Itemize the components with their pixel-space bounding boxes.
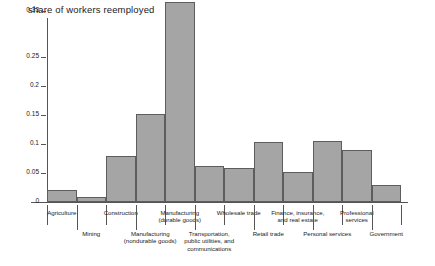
bar-chart: share of workers reemployed 00.050.10.15… (0, 0, 435, 266)
y-axis-tick: 0.15 (0, 115, 46, 116)
bar (136, 114, 166, 202)
category-divider (313, 205, 314, 230)
category-label-line: services (318, 216, 395, 223)
y-axis-tick: 0.2 (0, 86, 46, 87)
bar (224, 168, 254, 202)
bar (77, 197, 107, 202)
y-axis-tick-label: 0.2 (30, 81, 39, 88)
y-axis-tick-label: 0.1 (30, 139, 39, 146)
y-axis-tick-label: 0 (35, 197, 39, 204)
y-axis-tick: 0.33 (0, 11, 46, 12)
y-axis-tick-label: 0.15 (26, 110, 39, 117)
category-label-line: Government (348, 230, 425, 237)
y-axis-tick: 0.1 (0, 144, 46, 145)
plot-area (47, 18, 408, 202)
category-label: Professionalservices (318, 209, 395, 224)
y-axis-tick: 0.05 (0, 173, 46, 174)
chart-title: share of workers reemployed (28, 4, 155, 15)
category-divider (254, 205, 255, 230)
y-axis-tick-mark (41, 57, 46, 58)
category-divider (77, 205, 78, 230)
y-axis-tick-mark (41, 86, 46, 87)
y-axis-tick-mark (41, 11, 46, 12)
bar (195, 166, 225, 202)
bar (342, 150, 372, 202)
bar (47, 190, 77, 202)
bar (283, 172, 313, 202)
category-label-table: AgricultureMiningConstructionManufacturi… (31, 205, 408, 263)
category-divider (195, 205, 196, 230)
y-axis-tick: 0.25 (0, 57, 46, 58)
bar (313, 141, 343, 202)
category-label-line: Professional (318, 209, 395, 216)
bar (372, 185, 402, 202)
y-axis-tick-label: 0.25 (26, 52, 39, 59)
category-divider (372, 205, 373, 230)
bar (254, 142, 284, 202)
y-axis-tick-mark (41, 144, 46, 145)
bar (165, 2, 195, 202)
y-axis-tick: 0 (0, 202, 46, 203)
category-label-line: communications (171, 245, 248, 252)
category-divider (401, 205, 402, 225)
category-label-line: public utilities, and (171, 237, 248, 244)
category-label-line: (durable goods) (141, 216, 218, 223)
y-axis-tick-mark (41, 173, 46, 174)
category-label: Government (348, 230, 425, 237)
bar (106, 156, 136, 202)
category-divider (136, 205, 137, 230)
y-axis-tick-label: 0.05 (26, 168, 39, 175)
x-axis-line (31, 202, 408, 203)
y-axis-tick-mark (41, 115, 46, 116)
y-axis-tick-label: 0.33 (26, 6, 39, 13)
y-axis-tick-mark (41, 202, 46, 203)
